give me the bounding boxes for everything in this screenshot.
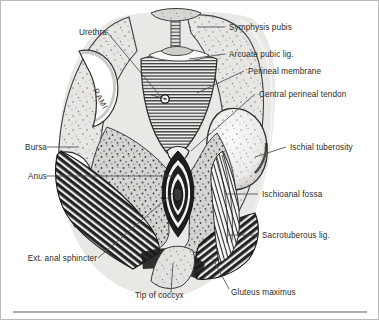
- anatomy-illustration: [1, 1, 379, 320]
- label-anus: Anus: [5, 172, 47, 181]
- anus-lumen: [174, 188, 182, 201]
- label-arcuate-pubic-lig: Arcuate pubic lig.: [229, 50, 294, 59]
- label-central-perineal-tendon: Central perineal tendon: [259, 90, 346, 99]
- label-gluteus-maximus: Gluteus maximus: [231, 288, 296, 297]
- figure-page: Urethra Bursa Anus Ext. anal sphincter S…: [0, 0, 379, 320]
- label-ischioanal-fossa: Ischioanal fossa: [262, 190, 322, 199]
- label-ischial-tuberosity: Ischial tuberosity: [290, 143, 353, 152]
- label-urethra: Urethra: [15, 28, 107, 37]
- label-sacrotuberous-lig: Sacrotuberous lig.: [262, 231, 330, 240]
- label-symphysis-pubis: Symphysis pubis: [229, 23, 292, 32]
- label-tip-of-coccyx: Tip of coccyx: [135, 291, 184, 300]
- label-perineal-membrane: Perineal membrane: [248, 67, 321, 76]
- label-ext-anal-sphincter: Ext. anal sphincter: [5, 254, 97, 263]
- label-bursa: Bursa: [5, 143, 47, 152]
